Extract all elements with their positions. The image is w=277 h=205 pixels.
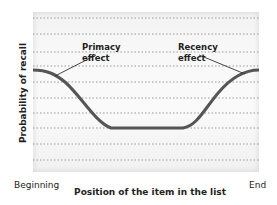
- serial-position-curve: [33, 70, 259, 128]
- chart-svg: [33, 12, 259, 172]
- primacy-label-line1: Primacy: [82, 42, 121, 53]
- gridlines: [33, 18, 259, 160]
- recency-annotation: Recency effect: [178, 42, 218, 64]
- plot-area: [33, 12, 259, 172]
- x-axis-label: Position of the item in the list: [60, 187, 240, 197]
- recency-label-line2: effect: [178, 53, 218, 64]
- x-tick-end: End: [249, 180, 266, 190]
- primacy-label-line2: effect: [82, 53, 121, 64]
- x-tick-beginning: Beginning: [14, 180, 59, 190]
- primacy-annotation: Primacy effect: [82, 42, 121, 64]
- y-axis-label: Probability of recall: [18, 38, 28, 148]
- recency-label-line1: Recency: [178, 42, 218, 53]
